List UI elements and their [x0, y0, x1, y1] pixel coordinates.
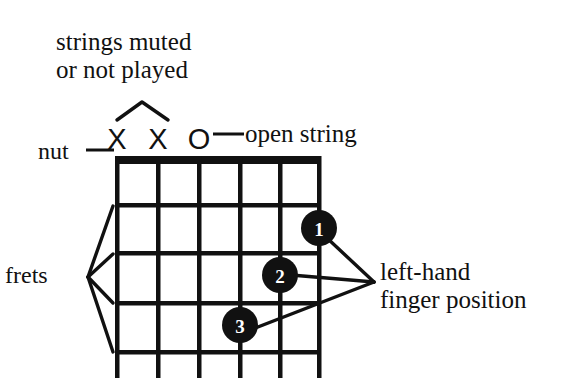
fret-line-2 — [115, 251, 321, 256]
finger-dot-2-label: 2 — [275, 266, 285, 287]
annotation-frets: frets — [5, 262, 48, 289]
annotation-strings-muted: strings muted or not played — [56, 28, 191, 84]
finger-dot-3-label: 3 — [235, 316, 245, 337]
string-line-6 — [317, 156, 322, 378]
annotation-nut: nut — [38, 138, 69, 165]
finger-dot-2: 2 — [262, 257, 298, 293]
fret-line-1 — [115, 203, 321, 208]
fret-line-3 — [115, 301, 321, 306]
string-marker-x-2: X — [143, 124, 173, 154]
nut-bar — [115, 156, 321, 164]
fret-line-4 — [115, 350, 321, 355]
annotation-open-string: open string — [245, 120, 357, 148]
frets-leader-lines — [88, 206, 113, 352]
annotation-finger-position: left-hand finger position — [380, 258, 527, 314]
finger-dot-1-label: 1 — [314, 219, 324, 240]
string-line-1 — [115, 156, 120, 378]
string-line-3 — [197, 156, 202, 378]
string-marker-x-1: X — [102, 124, 132, 154]
finger-dot-1: 1 — [301, 210, 337, 246]
finger-dot-3: 3 — [222, 307, 258, 343]
string-marker-o-3: O — [184, 124, 214, 154]
string-line-4 — [238, 156, 243, 378]
chord-diagram-figure: 1 2 3 X X O strings muted or not played … — [0, 0, 567, 389]
string-line-2 — [156, 156, 161, 378]
muted-strings-caret-icon — [117, 102, 168, 120]
